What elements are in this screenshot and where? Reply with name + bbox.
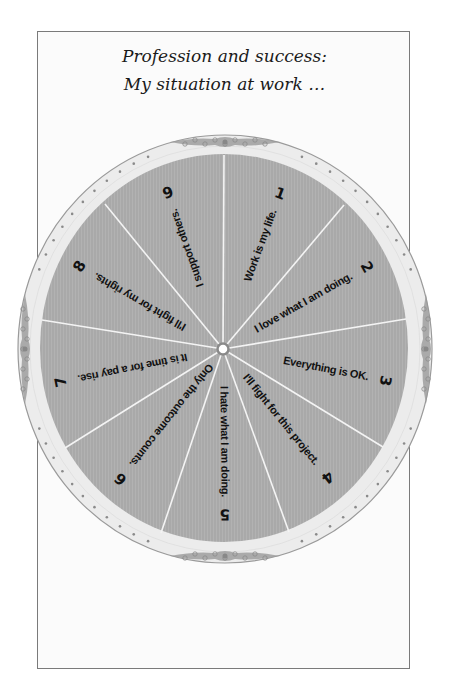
ring-dot xyxy=(45,442,48,445)
ring-dot xyxy=(93,506,96,509)
ring-dot xyxy=(147,156,150,159)
ring-dot xyxy=(106,179,109,182)
floral-ornament-icon xyxy=(421,294,431,404)
ring-dot xyxy=(354,506,357,509)
ring-dot xyxy=(119,525,122,528)
ring-dot xyxy=(38,427,41,430)
ring-dot xyxy=(329,170,332,173)
ring-dot xyxy=(82,495,85,498)
situation-wheel: Work is my life.1I love what I am doing.… xyxy=(0,0,454,700)
ring-dot xyxy=(403,253,406,256)
ring-dot xyxy=(409,427,412,430)
ring-dot xyxy=(119,170,122,173)
ring-dot xyxy=(301,540,304,543)
ring-dot xyxy=(377,483,380,486)
ring-dot xyxy=(52,456,55,459)
ring-dot xyxy=(106,516,109,519)
ring-dot xyxy=(377,213,380,216)
segment-number: 5 xyxy=(219,505,230,523)
ring-dot xyxy=(366,495,369,498)
ring-dot xyxy=(93,190,96,193)
ring-dot xyxy=(342,179,345,182)
ring-dot xyxy=(71,213,74,216)
center-hub xyxy=(218,344,229,355)
ring-dot xyxy=(386,225,389,228)
ring-dot xyxy=(82,201,85,204)
ring-dot xyxy=(147,540,150,543)
ring-dot xyxy=(52,239,55,242)
ring-dot xyxy=(315,162,318,165)
ring-dot xyxy=(395,239,398,242)
ring-dot xyxy=(315,533,318,536)
ring-dot xyxy=(329,525,332,528)
ring-dot xyxy=(395,456,398,459)
ring-dot xyxy=(38,268,41,271)
segment-label: I hate what I am doing. xyxy=(218,386,231,497)
ring-dot xyxy=(409,268,412,271)
ring-dot xyxy=(45,253,48,256)
ring-dot xyxy=(386,470,389,473)
ring-dot xyxy=(403,442,406,445)
ring-dot xyxy=(71,483,74,486)
ring-dot xyxy=(61,470,64,473)
ring-dot xyxy=(354,190,357,193)
ring-dot xyxy=(301,156,304,159)
ring-dot xyxy=(132,162,135,165)
ring-dot xyxy=(61,225,64,228)
ring-dot xyxy=(342,516,345,519)
ring-dot xyxy=(366,201,369,204)
segment-divider xyxy=(223,155,224,349)
ring-dot xyxy=(132,533,135,536)
